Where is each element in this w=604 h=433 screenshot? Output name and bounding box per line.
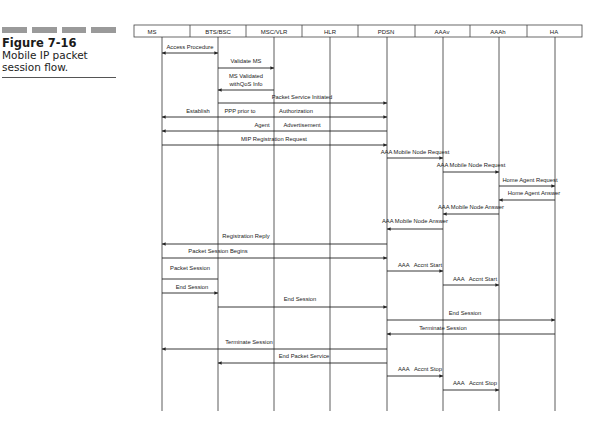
label-aaa-stop-1a: AAA (398, 366, 410, 372)
label-aaa-start-2a: AAA (453, 276, 465, 282)
label-home-agent-request: Home Agent Request (502, 177, 557, 183)
entity-pdsn: PDSN (378, 29, 395, 35)
label-end-session-1: End Session (176, 284, 209, 290)
label-ms-validated: MS Validated (229, 73, 263, 79)
label-end-packet-service: End Packet Service (279, 353, 330, 359)
entity-aaav: AAAv (435, 29, 450, 35)
entity-hlr: HLR (324, 29, 337, 35)
entity-header: MS BTS/BSC MSC/VLR HLR PDSN AAAv AAAh HA (134, 25, 582, 37)
label-with-qos: withQoS Info (228, 81, 262, 87)
label-aaa-start-1a: AAA (398, 262, 410, 268)
label-aaa-start-1b: Accnt Start (414, 262, 443, 268)
label-authorization: Authorization (279, 108, 313, 114)
label-agent: Agent (254, 122, 270, 128)
lifelines (162, 37, 555, 411)
sequence-diagram: MS BTS/BSC MSC/VLR HLR PDSN AAAv AAAh HA (0, 0, 604, 433)
label-validate-ms: Validate MS (231, 58, 262, 64)
messages (162, 53, 555, 390)
entity-bts-bsc: BTS/BSC (205, 29, 231, 35)
label-ppp-prior: PPP prior to (224, 108, 255, 114)
label-end-session-3: End Session (449, 310, 482, 316)
label-packet-session: Packet Session (170, 265, 210, 271)
entity-msc-vlr: MSC/VLR (261, 29, 288, 35)
label-advertisement: Advertisement (283, 122, 320, 128)
label-terminate-session-1: Terminate Session (419, 325, 467, 331)
entity-ms: MS (148, 29, 157, 35)
label-packet-session-begins: Packet Session Begins (188, 248, 247, 254)
label-aaa-mn-answer-2: AAA Mobile Node Answer (382, 218, 448, 224)
label-terminate-session-2: Terminate Session (225, 339, 273, 345)
label-end-session-2: End Session (284, 296, 317, 302)
label-access-procedure: Access Procedure (166, 44, 213, 50)
label-mip-registration-request: MIP Registration Request (241, 136, 307, 142)
label-aaa-mn-request-1: AAA Mobile Node Request (381, 149, 450, 155)
label-aaa-mn-request-2: AAA Mobile Node Request (437, 162, 506, 168)
entity-aaah: AAAh (490, 29, 505, 35)
label-aaa-stop-2a: AAA (453, 380, 465, 386)
label-packet-service-initiated: Packet Service Initiated (272, 94, 333, 100)
label-registration-reply: Registration Reply (222, 233, 269, 239)
label-aaa-stop-2b: Accnt Stop (469, 380, 497, 386)
label-aaa-mn-answer-1: AAA Mobile Node Answer (438, 204, 504, 210)
label-establish: Establish (186, 108, 210, 114)
label-home-agent-answer: Home Agent Answer (508, 190, 561, 196)
message-labels: Access Procedure Validate MS MS Validate… (166, 44, 560, 386)
label-aaa-start-2b: Accnt Start (469, 276, 498, 282)
entity-ha: HA (550, 29, 558, 35)
label-aaa-stop-1b: Accnt Stop (414, 366, 442, 372)
